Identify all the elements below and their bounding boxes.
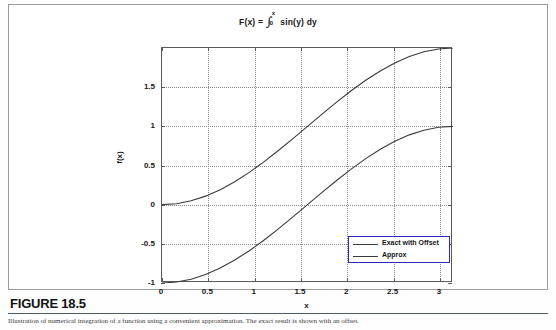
legend-line-swatch	[353, 256, 378, 257]
legend-item-approx: Approx	[349, 250, 449, 263]
figure-frame: F(x) = ∫x0 sin(y) dy f(x) x Exact with O…	[8, 4, 548, 290]
y-axis-label: f(x)	[115, 151, 124, 163]
legend: Exact with Offset Approx	[348, 236, 450, 263]
figure-number: FIGURE 18.5	[8, 296, 548, 311]
x-tick-label: 2.5	[387, 287, 398, 296]
y-tick-label: 1.5	[127, 82, 155, 91]
figure-page: F(x) = ∫x0 sin(y) dy f(x) x Exact with O…	[0, 0, 556, 330]
y-axis-tick	[448, 283, 452, 284]
x-tick-label: 0	[159, 287, 163, 296]
y-tick-label: 0.5	[127, 160, 155, 169]
plot-title-integrand: sin(y) dy	[280, 17, 317, 27]
plot-title-lhs: F(x) =	[239, 17, 263, 27]
caption-divider	[8, 313, 548, 314]
plot-title: F(x) = ∫x0 sin(y) dy	[9, 17, 547, 27]
y-tick-label: 0	[127, 199, 155, 208]
legend-label: Approx	[382, 251, 407, 258]
y-tick-label: -0.5	[127, 238, 155, 247]
y-tick-label: -1	[127, 278, 155, 287]
figure-caption-block: FIGURE 18.5 Illustration of numerical in…	[8, 296, 548, 324]
x-tick-label: 1	[251, 287, 255, 296]
x-tick-label: 1.5	[294, 287, 305, 296]
legend-line-swatch	[353, 244, 378, 245]
series-line	[162, 48, 453, 205]
x-tick-label: 2	[344, 287, 348, 296]
figure-caption-text: Illustration of numerical integration of…	[8, 317, 548, 324]
legend-label: Exact with Offset	[382, 239, 439, 246]
plot-area: Exact with Offset Approx	[161, 47, 452, 282]
x-tick-label: 0.5	[202, 287, 213, 296]
y-tick-label: 1	[127, 121, 155, 130]
y-axis-tick	[161, 283, 165, 284]
x-tick-label: 3	[437, 287, 441, 296]
